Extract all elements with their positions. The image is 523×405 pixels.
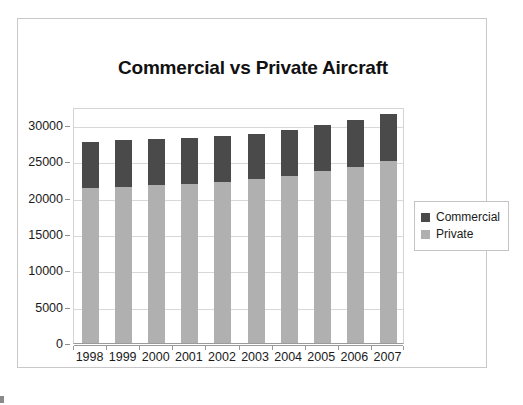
chart-title: Commercial vs Private Aircraft — [18, 57, 488, 79]
y-tick-label: 30000 — [28, 119, 63, 133]
bar-segment-private[interactable] — [281, 176, 298, 343]
bar-group[interactable] — [214, 107, 231, 343]
x-tick-label: 2002 — [208, 350, 236, 364]
bar-segment-commercial[interactable] — [380, 114, 397, 162]
y-tick-label: 10000 — [28, 264, 63, 278]
scan-artifact — [0, 396, 4, 403]
x-tick-mark — [172, 346, 173, 350]
legend-swatch-icon — [421, 230, 430, 239]
x-tick-label: 1999 — [109, 350, 137, 364]
y-axis: 050001000015000200002500030000 — [18, 108, 70, 344]
x-tick-label: 2004 — [274, 350, 302, 364]
bar-segment-commercial[interactable] — [248, 134, 265, 179]
x-tick-mark — [73, 346, 74, 350]
y-tick-mark — [65, 162, 70, 163]
bar-group[interactable] — [148, 107, 165, 343]
bar-group[interactable] — [248, 107, 265, 343]
x-tick-mark — [305, 346, 306, 350]
bar-segment-private[interactable] — [181, 184, 198, 343]
plot-area — [73, 108, 404, 344]
bar-segment-private[interactable] — [115, 187, 132, 343]
legend-item[interactable]: Commercial — [421, 210, 500, 224]
y-tick-mark — [65, 199, 70, 200]
x-tick-mark — [403, 346, 404, 350]
y-tick-label: 25000 — [28, 155, 63, 169]
bar-segment-commercial[interactable] — [82, 142, 99, 188]
legend-label: Private — [436, 227, 473, 241]
bar-group[interactable] — [314, 107, 331, 343]
bar-segment-commercial[interactable] — [115, 140, 132, 186]
x-tick-mark — [272, 346, 273, 350]
bar-group[interactable] — [347, 107, 364, 343]
x-tick-label: 2000 — [142, 350, 170, 364]
y-tick-label: 5000 — [35, 301, 63, 315]
chart-frame: Commercial vs Private Aircraft 050001000… — [17, 18, 487, 368]
bar-group[interactable] — [82, 107, 99, 343]
y-tick-mark — [65, 235, 70, 236]
x-tick-label: 2003 — [241, 350, 269, 364]
bar-segment-private[interactable] — [347, 167, 364, 343]
x-tick-mark — [338, 346, 339, 350]
y-tick-label: 20000 — [28, 192, 63, 206]
x-tick-label: 1998 — [76, 350, 104, 364]
chart-legend: CommercialPrivate — [414, 201, 509, 251]
legend-label: Commercial — [436, 210, 500, 224]
x-tick-mark — [205, 346, 206, 350]
bar-segment-private[interactable] — [214, 182, 231, 343]
bar-group[interactable] — [115, 107, 132, 343]
x-tick-label: 2001 — [175, 350, 203, 364]
x-tick-label: 2005 — [307, 350, 335, 364]
bar-segment-private[interactable] — [314, 171, 331, 343]
x-tick-label: 2007 — [374, 350, 402, 364]
bar-segment-private[interactable] — [380, 161, 397, 343]
bar-segment-commercial[interactable] — [214, 136, 231, 182]
x-axis: 1998199920002001200220032004200520062007 — [73, 346, 404, 368]
y-tick-mark — [65, 308, 70, 309]
x-tick-label: 2006 — [340, 350, 368, 364]
x-tick-mark — [139, 346, 140, 350]
legend-item[interactable]: Private — [421, 227, 500, 241]
bar-segment-commercial[interactable] — [347, 120, 364, 167]
bar-segment-commercial[interactable] — [281, 130, 298, 176]
bar-group[interactable] — [380, 107, 397, 343]
bar-segment-private[interactable] — [148, 185, 165, 343]
bar-group[interactable] — [281, 107, 298, 343]
bar-segment-commercial[interactable] — [314, 125, 331, 171]
bar-segment-commercial[interactable] — [148, 139, 165, 185]
y-tick-mark — [65, 344, 70, 345]
y-tick-mark — [65, 126, 70, 127]
x-tick-mark — [371, 346, 372, 350]
legend-swatch-icon — [421, 213, 430, 222]
x-tick-mark — [106, 346, 107, 350]
y-tick-label: 0 — [56, 337, 63, 351]
bars-layer — [74, 109, 403, 343]
bar-segment-private[interactable] — [82, 188, 99, 343]
bar-group[interactable] — [181, 107, 198, 343]
y-tick-label: 15000 — [28, 228, 63, 242]
bar-segment-private[interactable] — [248, 179, 265, 343]
bar-segment-commercial[interactable] — [181, 138, 198, 184]
x-tick-mark — [239, 346, 240, 350]
y-tick-mark — [65, 271, 70, 272]
